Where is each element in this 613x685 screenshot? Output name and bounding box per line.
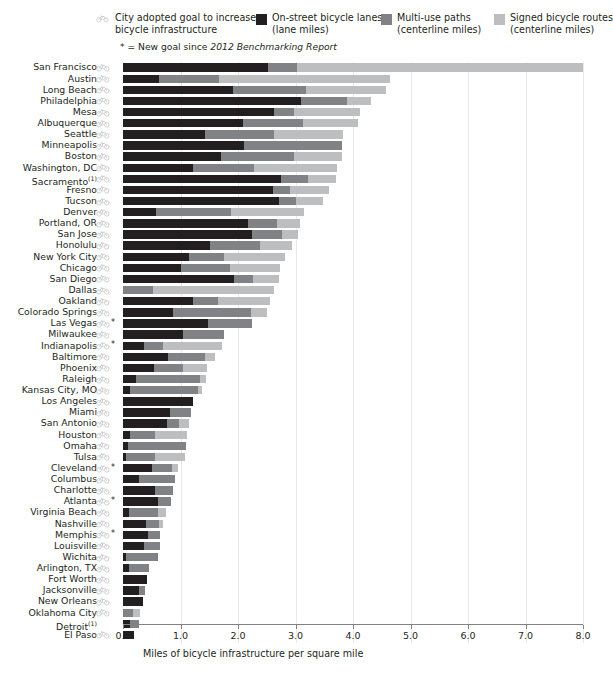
chart-row: Baltimore [0, 351, 601, 362]
x-tick-label: 7.0 [518, 630, 533, 641]
bicycle-icon [96, 530, 110, 539]
chart-row: Raleigh [0, 374, 601, 385]
legend-label-on-street: On-street bicycle lanes [272, 12, 382, 24]
bar-segment-signed-routes [296, 197, 323, 205]
legend-item-multi-use: Multi-use paths (centerline miles) [381, 12, 481, 35]
bar-segment-on-street [123, 186, 273, 194]
city-label: Denver [63, 207, 97, 217]
bar-segment-signed-routes [347, 97, 371, 105]
chart-row: Charlotte [0, 485, 601, 496]
stacked-bar [123, 342, 222, 350]
city-label: Austin [68, 74, 97, 84]
city-label: Nashville [55, 519, 97, 529]
stacked-bar [123, 63, 583, 71]
bar-segment-on-street [123, 275, 234, 283]
chart-row: Seattle [0, 129, 601, 140]
bar-segment-on-street [123, 575, 147, 583]
stacked-bar [123, 75, 390, 83]
chart-row: Milwaukee [0, 329, 601, 340]
stacked-bar [123, 475, 175, 483]
city-label: San Jose [58, 229, 97, 239]
stacked-bar [123, 264, 280, 272]
x-tick [238, 625, 239, 629]
bicycle-icon [96, 108, 110, 117]
legend-sublabel-on-street: (lane miles) [272, 24, 382, 36]
bar-segment-on-street [123, 241, 210, 249]
bar-segment-multi-use [168, 353, 205, 361]
stacked-bar [123, 397, 193, 405]
legend-sublabel-signed-routes: (centerline miles) [510, 24, 613, 36]
stacked-bar [123, 609, 140, 617]
city-label: Houston [58, 430, 97, 440]
chart-row: Kansas City, MO [0, 385, 601, 396]
bicycle-icon [96, 319, 110, 328]
new-goal-asterisk: * [111, 496, 115, 505]
city-label: Washington, DC [23, 163, 97, 173]
city-label: Kansas City, MO [22, 385, 97, 395]
stacked-bar [123, 408, 191, 416]
x-axis-title: Miles of bicycle infrastructure per squa… [143, 648, 363, 659]
bar-segment-signed-routes [297, 63, 583, 71]
stacked-bar [123, 253, 285, 261]
bar-segment-multi-use [170, 408, 191, 416]
bicycle-icon [96, 219, 110, 228]
bicycle-icon [96, 274, 110, 283]
bar-segment-signed-routes [219, 75, 390, 83]
stacked-bar [123, 208, 304, 216]
bar-segment-signed-routes [251, 308, 267, 316]
city-label: Albuquerque [38, 118, 97, 128]
bicycle-icon [96, 174, 110, 183]
chart-row: Atlanta* [0, 496, 601, 507]
bar-segment-on-street [123, 464, 152, 472]
x-tick [123, 625, 124, 629]
bicycle-icon [96, 341, 110, 350]
stacked-bar [123, 141, 342, 149]
city-label: Honolulu [56, 240, 97, 250]
stacked-bar [123, 241, 292, 249]
bar-segment-multi-use [248, 219, 277, 227]
bar-segment-on-street [123, 197, 279, 205]
stacked-bar [123, 564, 149, 572]
bar-segment-multi-use [301, 97, 347, 105]
stacked-bar [123, 597, 143, 605]
city-label: San Diego [50, 274, 98, 284]
city-label: Fort Worth [48, 574, 97, 584]
bar-segment-multi-use [234, 275, 253, 283]
stacked-bar [123, 152, 342, 160]
stacked-bar [123, 419, 189, 427]
bar-segment-on-street [123, 520, 146, 528]
bar-segment-multi-use [126, 553, 158, 561]
bar-segment-multi-use [139, 586, 145, 594]
bar-segment-multi-use [189, 253, 224, 261]
bicycle-icon [96, 419, 110, 428]
city-label: Omaha [63, 441, 97, 451]
chart-row: San Antonio [0, 418, 601, 429]
chart-row: Oklahoma City [0, 607, 601, 618]
bicycle-icon [96, 363, 110, 372]
chart-legend: City adopted goal to increase bicycle in… [0, 0, 601, 56]
bar-segment-on-street [123, 319, 208, 327]
x-tick [296, 625, 297, 629]
chart-row: San Diego [0, 273, 601, 284]
bar-segment-signed-routes [274, 130, 343, 138]
legend-label-multi-use: Multi-use paths [397, 12, 481, 24]
bar-segment-signed-routes [254, 164, 337, 172]
bar-rows: San FranciscoAustinLong BeachPhiladelphi… [0, 62, 601, 641]
bicycle-icon [96, 464, 110, 473]
bar-segment-on-street [123, 152, 221, 160]
bicycle-icon [96, 130, 110, 139]
bar-segment-multi-use [156, 208, 231, 216]
legend-sublabel-multi-use: (centerline miles) [397, 24, 481, 36]
stacked-bar [123, 542, 160, 550]
chart-row: Boston [0, 151, 601, 162]
bar-segment-multi-use [146, 520, 159, 528]
chart-plot-area: San FranciscoAustinLong BeachPhiladelphi… [0, 62, 601, 624]
bar-segment-multi-use [123, 609, 133, 617]
bar-segment-multi-use [158, 497, 171, 505]
city-label: Boston [65, 151, 97, 161]
city-label: San Francisco [33, 62, 97, 72]
bar-segment-multi-use [130, 431, 155, 439]
chart-row: Virginia Beach [0, 507, 601, 518]
chart-row: Tulsa [0, 451, 601, 462]
bar-segment-on-street [123, 164, 193, 172]
